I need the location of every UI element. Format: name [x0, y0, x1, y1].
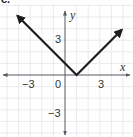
x-tick-label-neg3: −3 [22, 78, 35, 90]
absolute-value-graph: c. x y −3 0 3 3 −3 [0, 0, 133, 137]
y-tick-label-3: 3 [55, 33, 61, 45]
x-axis-label: x [119, 60, 126, 74]
y-tick-label-neg3: −3 [48, 107, 61, 119]
grid [0, 5, 133, 137]
panel-label: c. [1, 0, 10, 5]
absolute-value-curve [17, 16, 121, 75]
x-tick-label-3: 3 [98, 78, 104, 90]
x-tick-label-0: 0 [55, 78, 61, 90]
y-axis-label: y [69, 8, 76, 22]
